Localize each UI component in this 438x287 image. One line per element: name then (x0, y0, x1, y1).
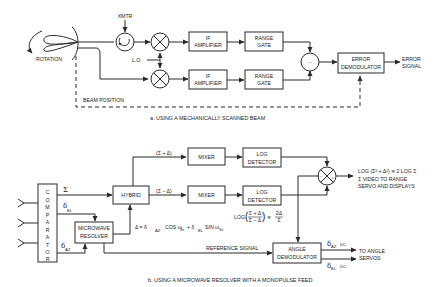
comparator: C O M P A R A T O R (38, 184, 57, 262)
svg-text:RANGE: RANGE (255, 73, 274, 79)
svg-text:AMPLIFIER: AMPLIFIER (194, 42, 222, 48)
mixer-b-2: MIXER (188, 186, 225, 203)
svg-text:Δ = δ: Δ = δ (135, 224, 147, 230)
xmtr-label: XMTR (118, 13, 133, 19)
video-label-line-1: Σ VIDEO TO RANGE (358, 176, 408, 182)
svg-text:MICROWAVE: MICROWAVE (78, 225, 111, 231)
subtractor-icon: − (301, 53, 319, 71)
horn-feed-icons (18, 199, 24, 247)
svg-text:2Δ: 2Δ (276, 210, 283, 216)
error-demodulator: ERROR DEMODULATOR (338, 53, 384, 73)
microwave-resolver: MICROWAVE RESOLVER (75, 222, 113, 243)
video-label-line-2: SERVO AND DISPLAYS (358, 183, 415, 189)
svg-text:t: t (222, 227, 224, 232)
svg-text:LOG: LOG (234, 214, 245, 220)
svg-text:RANGE: RANGE (255, 35, 274, 41)
svg-text:DC: DC (340, 242, 346, 247)
log-detector-1: LOG DETECTOR (243, 148, 281, 167)
sum-minus-delta-label: (Σ − Δ) (156, 188, 172, 194)
svg-text:GATE: GATE (257, 42, 271, 48)
svg-text:R: R (46, 256, 50, 262)
rotation-arrow-icon (29, 31, 42, 53)
reference-signal-label: REFERENCE SIGNAL (206, 245, 259, 251)
log-sum-equation: LOG (Σ² + Δ²) ≅ 2 LOG Σ (358, 168, 416, 174)
svg-text:RESOLVER: RESOLVER (80, 233, 108, 239)
to-angle-servos-label: TO ANGLE (359, 248, 385, 254)
svg-text:GATE: GATE (257, 80, 271, 86)
svg-text:HYBRID: HYBRID (121, 192, 141, 198)
svg-text:Σ: Σ (277, 217, 280, 223)
hybrid: HYBRID (113, 186, 149, 204)
svg-text:EL: EL (331, 266, 337, 271)
if-amplifier-1: IF AMPLIFIER (189, 32, 227, 51)
svg-text:SERVOS: SERVOS (359, 255, 381, 261)
svg-text:EL: EL (67, 208, 73, 213)
svg-text:): ) (262, 211, 265, 222)
svg-text:R: R (46, 227, 50, 233)
svg-text:DEMODULATOR: DEMODULATOR (277, 254, 317, 260)
svg-text:DETECTOR: DETECTOR (248, 159, 277, 165)
svg-text:EL: EL (198, 228, 204, 233)
svg-text:AZ: AZ (65, 247, 71, 252)
svg-text:DEMODULATOR: DEMODULATOR (341, 64, 381, 70)
diagram-b: C O M P A R A T O R Σ δ EL δ AZ MICROWAV… (18, 148, 416, 283)
svg-text:AZ: AZ (331, 244, 337, 249)
svg-text:O: O (45, 197, 49, 203)
svg-text:SIGNAL: SIGNAL (402, 63, 421, 69)
caption-a: a. USING A MECHANICALLY SCANNED BEAM (150, 115, 266, 121)
if-amplifier-2: IF AMPLIFIER (189, 70, 227, 89)
svg-text:DETECTOR: DETECTOR (248, 197, 277, 203)
combiner-icon: − + (318, 167, 336, 185)
svg-text:ANGLE: ANGLE (288, 246, 306, 252)
circulator-icon (116, 33, 134, 51)
svg-text:t: t (183, 227, 185, 232)
svg-text:IF: IF (206, 35, 211, 41)
svg-text:LOG: LOG (257, 189, 268, 195)
rotation-label: ROTATION (36, 56, 62, 62)
svg-text:MIXER: MIXER (198, 154, 215, 160)
svg-text:IF: IF (206, 73, 211, 79)
svg-text:M: M (45, 204, 49, 210)
mixer-b-1: MIXER (188, 148, 225, 165)
sum-plus-delta-label: (Σ + Δ) (156, 150, 172, 156)
mixer-1-icon (151, 33, 169, 51)
range-gate-2: RANGE GATE (245, 70, 283, 89)
range-gate-1: RANGE GATE (245, 32, 283, 51)
beam-position-label: BEAM POSITION (83, 97, 124, 103)
svg-text:AZ: AZ (155, 228, 161, 233)
svg-text:LOG: LOG (257, 151, 268, 157)
delta-equation: Δ = δ AZ COS ω S t + δ EL SIN ω S t (135, 224, 224, 233)
svg-text:−: − (308, 59, 311, 65)
angle-demodulator: ANGLE DEMODULATOR (273, 243, 321, 263)
svg-text:O: O (45, 249, 49, 255)
svg-text:MIXER: MIXER (198, 192, 215, 198)
svg-text:AMPLIFIER: AMPLIFIER (194, 80, 222, 86)
lo-label: L.O. (132, 57, 142, 63)
svg-text:DC: DC (340, 264, 346, 269)
radar-block-diagram: ROTATION XMTR L.O. (0, 0, 438, 287)
svg-text:Σ + Δ: Σ + Δ (249, 210, 262, 216)
svg-text:Σ − Δ: Σ − Δ (249, 217, 262, 223)
sigma-label: Σ (63, 186, 68, 194)
error-signal-label: ERROR (402, 56, 421, 62)
svg-text:ERROR: ERROR (352, 56, 371, 62)
mixer-2-icon (151, 70, 169, 88)
svg-text:C: C (46, 189, 50, 195)
caption-b: b. USING A MICROWAVE RESOLVER WITH A MON… (148, 277, 314, 283)
log-ratio-equation: LOG ( Σ + Δ Σ − Δ ) ≅ 2Δ Σ (234, 210, 283, 223)
svg-text:SIN ω: SIN ω (205, 224, 219, 230)
svg-text:A: A (46, 234, 50, 240)
diagram-a: ROTATION XMTR L.O. (29, 13, 421, 121)
svg-text:P: P (46, 212, 50, 218)
svg-text:A: A (46, 219, 50, 225)
svg-text:+ δ: + δ (187, 224, 194, 230)
log-detector-2: LOG DETECTOR (243, 186, 281, 205)
svg-text:≅: ≅ (267, 214, 271, 220)
